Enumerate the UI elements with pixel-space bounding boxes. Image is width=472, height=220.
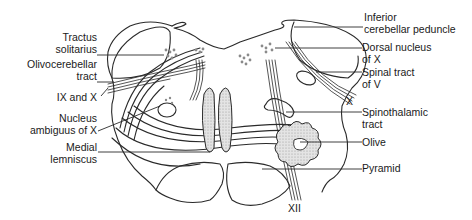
label-x-nerve: X	[346, 96, 353, 108]
left-medial-column	[202, 88, 215, 152]
label-nucleus-ambiguus: Nucleus ambiguus of X	[30, 113, 97, 136]
right-medial-column	[218, 88, 232, 152]
label-tractus-solitarius: Tractus solitarius	[56, 32, 97, 55]
label-spinal-tract-v: Spinal tract of V	[362, 67, 415, 90]
right-peduncle-outline	[291, 22, 358, 78]
label-spinothalamic-tract: Spinothalamic tract	[362, 107, 428, 130]
label-medial-lemniscus: Medial lemniscus	[50, 142, 97, 165]
label-olivocerebellar-tract: Olivocerebellar tract	[27, 59, 97, 82]
label-xii-nerve: XII	[288, 203, 301, 215]
label-dorsal-nucleus-x: Dorsal nucleus of X	[362, 42, 431, 65]
nucleus-ambiguus-oval	[158, 103, 176, 117]
label-ix-and-x: IX and X	[57, 92, 97, 104]
label-inferior-cerebellar-peduncle: Inferior cerebellar peduncle	[364, 12, 456, 35]
left-pyramid	[156, 162, 224, 202]
label-olive: Olive	[362, 137, 386, 149]
spinal-tract-v-oval	[294, 68, 317, 87]
label-pyramid: Pyramid	[362, 163, 401, 175]
